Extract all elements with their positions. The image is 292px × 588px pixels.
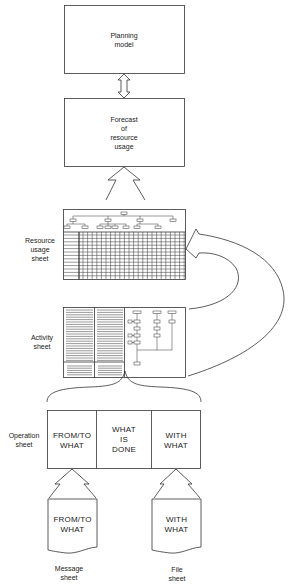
activity-label2: sheet <box>22 342 62 351</box>
forecast-line2: of <box>84 124 164 133</box>
resource-label1: Resource <box>18 236 62 245</box>
resource-label2: usage <box>18 245 62 254</box>
op-col3-line1: WITH <box>152 431 200 441</box>
diagram-canvas <box>0 0 292 588</box>
activity-label1: Activity <box>22 333 62 342</box>
op-col2-line3: DONE <box>97 445 151 455</box>
curved-arrowhead <box>186 229 199 258</box>
forecast-line1: Forecast <box>84 115 164 124</box>
op-col3-line2: WHAT <box>152 441 200 451</box>
file-sheet-caption: File sheet <box>152 565 202 583</box>
activity-sheet-label: Activity sheet <box>22 333 62 351</box>
resource-tree <box>64 212 176 229</box>
file-caption2: sheet <box>152 574 202 583</box>
expansion-brace <box>47 371 201 402</box>
file-caption1: File <box>152 565 202 574</box>
operation-label2: sheet <box>2 440 46 449</box>
double-arrow <box>118 74 130 98</box>
message-line1: FROM/TO <box>48 515 97 525</box>
op-col1-line1: FROM/TO <box>48 431 96 441</box>
planning-line1: Planning <box>84 31 164 40</box>
op-col1-line2: WHAT <box>48 441 96 451</box>
op-col-from-to: FROM/TO WHAT <box>48 431 96 451</box>
message-caption2: sheet <box>44 573 94 582</box>
forecast-line4: usage <box>84 142 164 151</box>
op-col2-line1: WHAT <box>97 425 151 435</box>
message-sheet-caption: Message sheet <box>44 564 94 582</box>
operation-label1: Operation <box>2 431 46 440</box>
file-line1: WITH <box>152 515 201 525</box>
resource-label3: sheet <box>18 254 62 263</box>
forecast-label: Forecast of resource usage <box>84 115 164 151</box>
resource-grid <box>64 232 186 279</box>
op-col2-line2: IS <box>97 435 151 445</box>
activity-sheet <box>64 308 186 378</box>
curved-arrow-outer <box>188 234 284 376</box>
curved-arrow-inner <box>189 253 239 309</box>
forecast-line3: resource <box>84 133 164 142</box>
resource-sheet-label: Resource usage sheet <box>18 236 62 263</box>
up-arrow-file <box>154 469 200 498</box>
up-arrow-message <box>49 469 96 498</box>
message-sheet-text: FROM/TO WHAT <box>48 515 97 535</box>
operation-sheet-label: Operation sheet <box>2 431 46 449</box>
planning-model-label: Planning model <box>84 31 164 49</box>
file-line2: WHAT <box>152 525 201 535</box>
message-caption1: Message <box>44 564 94 573</box>
up-arrow-forecast <box>106 167 145 200</box>
op-col-with-what: WITH WHAT <box>152 431 200 451</box>
file-sheet-text: WITH WHAT <box>152 515 201 535</box>
message-line2: WHAT <box>48 525 97 535</box>
planning-line2: model <box>84 40 164 49</box>
activity-network <box>128 311 176 365</box>
op-col-what-is-done: WHAT IS DONE <box>97 425 151 455</box>
